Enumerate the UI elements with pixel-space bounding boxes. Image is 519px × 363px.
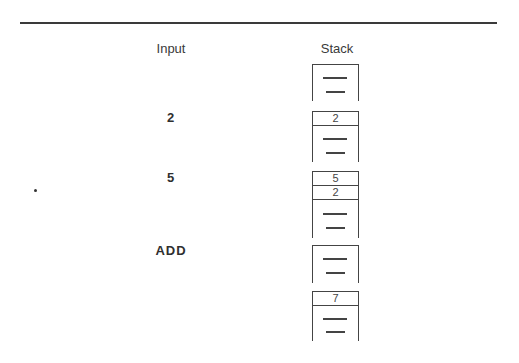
stack-diagram-step-3: 5 2 xyxy=(312,171,359,238)
stack-empty-region xyxy=(313,65,358,101)
stack-empty-region xyxy=(313,126,358,162)
stack-diagram-step-5: 7 xyxy=(312,291,359,341)
stack-diagram-step-4 xyxy=(312,245,359,283)
empty-slot-line xyxy=(326,152,345,154)
input-token-5: 5 xyxy=(167,170,175,185)
stack-cell: 5 xyxy=(313,172,358,186)
input-token-2: 2 xyxy=(167,110,175,125)
stack-empty-region xyxy=(313,200,358,238)
stack-column-header: Stack xyxy=(321,41,354,56)
empty-slot-line xyxy=(323,213,347,215)
empty-slot-line xyxy=(326,272,345,274)
stack-empty-region xyxy=(313,246,358,283)
stack-diagram-step-2: 2 xyxy=(312,111,359,162)
input-token-add: ADD xyxy=(155,243,186,258)
empty-slot-line xyxy=(326,227,345,229)
empty-slot-line xyxy=(323,77,347,79)
scan-speck xyxy=(34,189,37,192)
stack-diagram-step-1 xyxy=(312,64,359,101)
stack-cell: 7 xyxy=(313,292,358,306)
stack-empty-region xyxy=(313,306,358,341)
empty-slot-line xyxy=(323,318,347,320)
top-rule xyxy=(20,22,497,24)
empty-slot-line xyxy=(323,138,347,140)
input-column-header: Input xyxy=(157,41,186,56)
stack-cell: 2 xyxy=(313,112,358,126)
empty-slot-line xyxy=(326,331,345,333)
empty-slot-line xyxy=(323,258,347,260)
stack-cell: 2 xyxy=(313,186,358,200)
empty-slot-line xyxy=(326,91,345,93)
